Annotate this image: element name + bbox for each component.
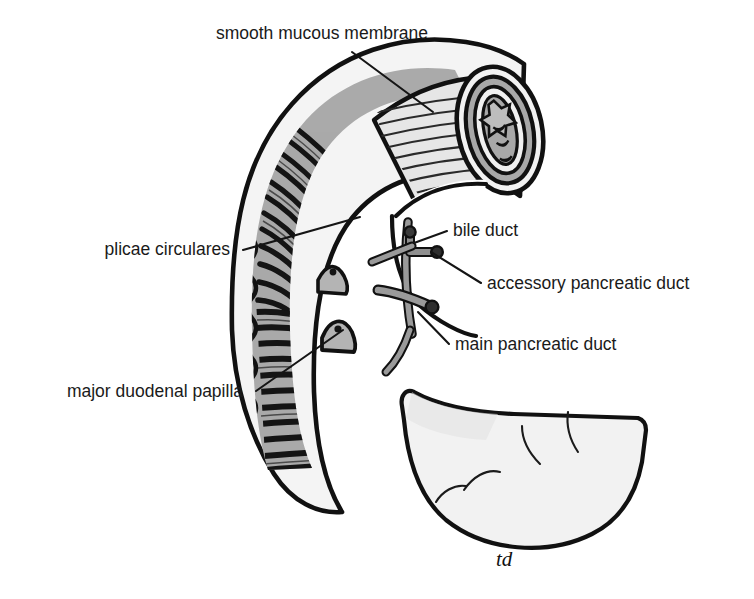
duodenum-diagram: smooth mucous membrane plicae circulares… — [0, 0, 754, 599]
major-papilla — [322, 321, 355, 352]
label-bile-duct: bile duct — [453, 220, 518, 240]
label-smooth-mucous-membrane: smooth mucous membrane — [216, 23, 428, 43]
label-plicae-circulares: plicae circulares — [105, 239, 231, 259]
label-main-pancreatic-duct: main pancreatic duct — [455, 334, 617, 354]
artist-signature: td — [496, 547, 513, 571]
label-major-duodenal-papilla: major duodenal papilla — [67, 381, 243, 401]
label-accessory-pancreatic-duct: accessory pancreatic duct — [487, 273, 689, 293]
